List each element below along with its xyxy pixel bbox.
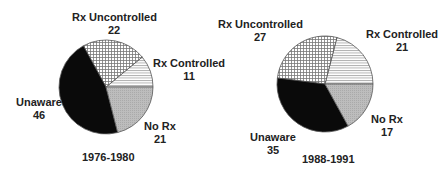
label-name: Rx Uncontrolled [218, 18, 302, 31]
label-value: 22 [72, 24, 156, 37]
pie-1988-1991 [277, 36, 373, 132]
label-rx-uncontrolled-1976: Rx Uncontrolled 22 [72, 11, 156, 37]
label-name: Rx Controlled [150, 57, 228, 70]
label-name: Unaware [14, 96, 64, 109]
label-no-rx-1988: No Rx 17 [367, 113, 407, 139]
pie-1976-1980 [59, 40, 153, 134]
label-unaware-1988: Unaware 35 [248, 131, 298, 157]
label-value: 21 [140, 133, 180, 146]
label-rx-controlled-1988: Rx Controlled 21 [363, 28, 441, 54]
label-name: Unaware [248, 131, 298, 144]
label-rx-uncontrolled-1988: Rx Uncontrolled 27 [218, 18, 302, 44]
label-value: 11 [150, 70, 228, 83]
year-label-1976-1980: 1976-1980 [82, 151, 135, 163]
label-value: 46 [14, 109, 64, 122]
label-value: 17 [367, 126, 407, 139]
label-value: 21 [363, 41, 441, 54]
label-value: 35 [248, 144, 298, 157]
label-name: No Rx [367, 113, 407, 126]
label-name: No Rx [140, 120, 180, 133]
label-value: 27 [218, 31, 302, 44]
label-name: Rx Uncontrolled [72, 11, 156, 24]
year-label-1988-1991: 1988-1991 [302, 153, 355, 165]
label-name: Rx Controlled [363, 28, 441, 41]
label-no-rx-1976: No Rx 21 [140, 120, 180, 146]
label-rx-controlled-1976: Rx Controlled 11 [150, 57, 228, 83]
label-unaware-1976: Unaware 46 [14, 96, 64, 122]
